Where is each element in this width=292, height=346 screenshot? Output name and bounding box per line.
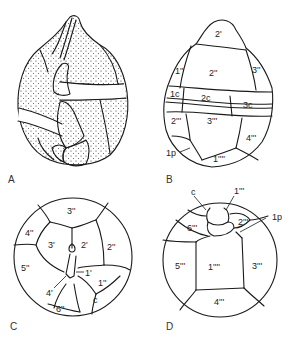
panel-label-c: C (10, 321, 17, 332)
label-b-2tprime: 2''' (171, 116, 181, 126)
label-b-1p: 1p (166, 148, 176, 158)
label-b-4tprime: 4''' (246, 133, 256, 143)
label-b-2c: 2c (201, 93, 211, 103)
label-b-1c: 1c (170, 89, 180, 99)
label-b-1dprime: 1'' (175, 66, 184, 76)
label-b-3c: 3c (243, 100, 253, 110)
panel-a-drawing (18, 16, 128, 166)
label-c-3prime: 3' (48, 240, 55, 250)
label-c-6dprime: 6'' (56, 304, 65, 314)
label-c-2dprime: 2'' (107, 242, 116, 252)
panel-b-drawing (164, 20, 273, 167)
label-b-2prime: 2' (215, 29, 222, 39)
label-d-5tprime: 5''' (175, 261, 185, 271)
label-c-4prime: 4' (46, 288, 53, 298)
label-c-4dprime: 4'' (25, 228, 34, 238)
label-c-5dprime: 5'' (21, 263, 30, 273)
label-c-1prime: 1' (85, 268, 92, 278)
panel-label-d: D (166, 321, 173, 332)
label-c-c: c (93, 295, 98, 305)
label-d-3tprime: 3''' (252, 261, 262, 271)
label-d-1p: 1p (272, 212, 282, 222)
label-c-1dprime: 1'' (98, 278, 107, 288)
label-d-1tprime: 1''' (234, 186, 244, 196)
label-b-3dprime: 3'' (252, 65, 261, 75)
label-d-1qprime: 1'''' (208, 262, 220, 272)
label-c-3dprime: 3'' (67, 206, 76, 216)
label-b-3tprime: 3''' (207, 116, 217, 126)
dinoflagellate-plate-figure: A 2' 2'' 1'' 3'' 1c 2c 3c 2''' 3''' 4'''… (0, 0, 292, 346)
label-d-6tprime: 6''' (187, 223, 197, 233)
label-d-4tprime: 4''' (214, 297, 224, 307)
label-d-2tprime: 2''' (238, 217, 248, 227)
label-c-2prime: 2' (81, 240, 88, 250)
label-b-2dprime: 2'' (209, 68, 218, 78)
panel-label-a: A (8, 174, 15, 185)
label-b-1qprime: 1'''' (213, 154, 225, 164)
panel-label-b: B (166, 174, 173, 185)
label-d-c: c (191, 187, 196, 197)
